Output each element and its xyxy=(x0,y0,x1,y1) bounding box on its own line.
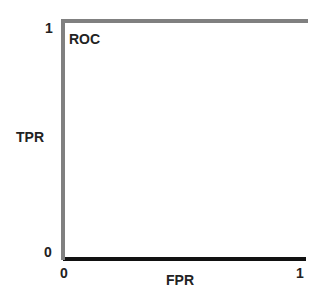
roc-chart: ROC TPR FPR 1 0 0 1 xyxy=(0,0,319,301)
y-axis-label: TPR xyxy=(16,129,44,145)
x-tick-label-1: 1 xyxy=(296,265,304,281)
x-axis-label: FPR xyxy=(166,272,194,288)
y-tick-label-1: 1 xyxy=(45,20,53,36)
y-tick-label-0: 0 xyxy=(44,244,52,260)
x-tick-label-0: 0 xyxy=(60,265,68,281)
chart-title: ROC xyxy=(69,31,100,47)
